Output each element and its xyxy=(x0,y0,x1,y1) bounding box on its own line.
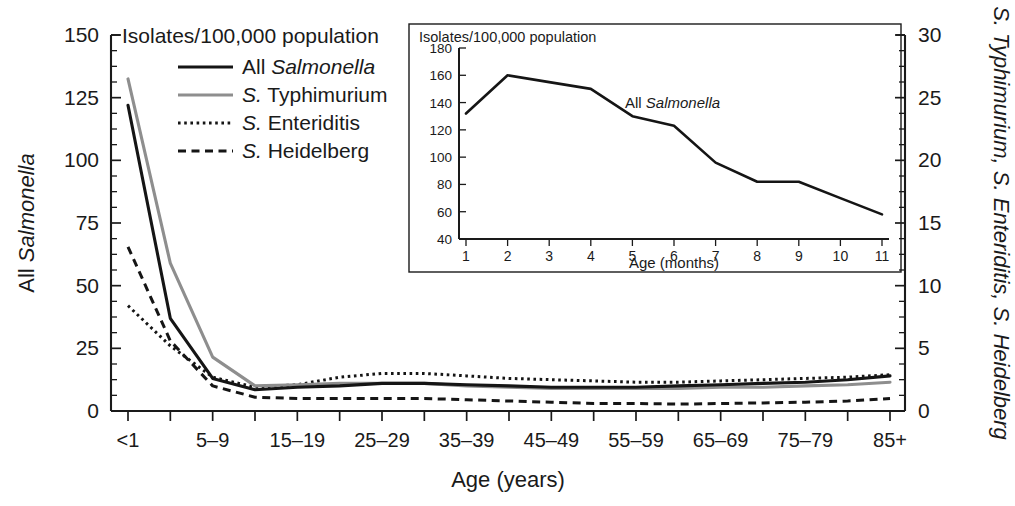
inset-y-tick-label: 140 xyxy=(429,96,452,111)
x-tick-label: 75–79 xyxy=(778,429,834,451)
y-left-tick-label: 150 xyxy=(64,23,99,46)
inset-y-tick-label: 80 xyxy=(437,177,452,192)
x-tick-label: <1 xyxy=(117,429,140,451)
inset-y-tick-label: 160 xyxy=(429,68,452,83)
x-tick-label: 25–29 xyxy=(354,429,410,451)
inset-y-tick-label: 60 xyxy=(437,205,452,220)
y-right-tick-label: 0 xyxy=(918,399,930,422)
inset-y-ticks: 406080100120140160180 xyxy=(429,41,466,247)
main-y-left-title: All Salmonella xyxy=(14,153,39,292)
main-x-ticks: <15–915–1925–2935–3945–4955–5965–6975–79… xyxy=(117,411,907,451)
inset-chart: Isolates/100,000 population 406080100120… xyxy=(409,24,901,272)
y-right-tick-label: 10 xyxy=(918,274,941,297)
y-left-tick-label: 0 xyxy=(87,399,99,422)
main-x-axis-title: Age (years) xyxy=(451,467,565,492)
inset-frame xyxy=(409,24,901,272)
inset-y-tick-label: 120 xyxy=(429,123,452,138)
x-tick-label: 45–49 xyxy=(524,429,580,451)
inset-x-tick-label: 9 xyxy=(795,248,803,264)
y-left-tick-label: 50 xyxy=(76,274,99,297)
x-tick-label: 15–19 xyxy=(270,429,326,451)
inset-x-tick-label: 1 xyxy=(462,248,470,264)
legend-item-s-heidelberg[interactable]: S. Heidelberg xyxy=(178,139,369,162)
main-right-ticks: 051015202530 xyxy=(895,23,941,422)
y-right-tick-label: 25 xyxy=(918,86,941,109)
inset-x-axis-title: Age (months) xyxy=(629,254,719,271)
main-header: Isolates/100,000 population xyxy=(122,24,379,47)
y-right-tick-label: 5 xyxy=(918,336,930,359)
inset-x-tick-label: 3 xyxy=(545,248,553,264)
inset-annotation: All Salmonella xyxy=(625,94,720,111)
y-left-tick-label: 25 xyxy=(76,336,99,359)
legend-item-s-enteriditis[interactable]: S. Enteriditis xyxy=(178,111,360,134)
svg-text:S. Typhimurium: S. Typhimurium xyxy=(242,83,388,106)
main-y-right-title: S. Typhimurium, S. Enteriditis, S. Heide… xyxy=(989,6,1014,440)
x-tick-label: 65–69 xyxy=(693,429,749,451)
y-right-tick-label: 30 xyxy=(918,23,941,46)
main-left-axis xyxy=(111,35,905,411)
svg-text:All Salmonella: All Salmonella xyxy=(14,153,39,292)
inset-x-tick-label: 8 xyxy=(753,248,761,264)
inset-y-tick-label: 40 xyxy=(437,232,452,247)
salmonella-age-figure: 0255075100125150 051015202530 <15–915–19… xyxy=(0,0,1015,506)
x-tick-label: 55–59 xyxy=(608,429,664,451)
line-s-enteriditis xyxy=(128,306,890,388)
inset-y-tick-label: 100 xyxy=(429,150,452,165)
inset-x-tick-label: 11 xyxy=(875,248,890,264)
y-left-tick-label: 75 xyxy=(76,211,99,234)
inset-x-tick-label: 2 xyxy=(504,248,512,264)
svg-text:All Salmonella: All Salmonella xyxy=(242,55,375,78)
y-right-tick-label: 15 xyxy=(918,211,941,234)
figure-root: 0255075100125150 051015202530 <15–915–19… xyxy=(0,0,1015,506)
legend-item-all-salmonella[interactable]: All Salmonella xyxy=(178,55,375,78)
inset-y-tick-label: 180 xyxy=(429,41,452,56)
x-tick-label: 35–39 xyxy=(439,429,495,451)
svg-text:S. Typhimurium, S. Enteriditis: S. Typhimurium, S. Enteriditis, S. Heide… xyxy=(989,6,1014,440)
svg-text:S. Enteriditis: S. Enteriditis xyxy=(242,111,360,134)
svg-text:S. Heidelberg: S. Heidelberg xyxy=(242,139,369,162)
inset-x-tick-label: 4 xyxy=(587,248,595,264)
y-right-tick-label: 20 xyxy=(918,148,941,171)
y-left-tick-label: 100 xyxy=(64,148,99,171)
x-tick-label: 85+ xyxy=(873,429,907,451)
x-tick-label: 5–9 xyxy=(196,429,229,451)
main-legend: All Salmonella S. Typhimurium S. Enterid… xyxy=(178,55,388,162)
legend-item-s-typhimurium[interactable]: S. Typhimurium xyxy=(178,83,388,106)
y-left-tick-label: 125 xyxy=(64,86,99,109)
main-left-ticks: 0255075100125150 xyxy=(64,23,121,422)
inset-x-tick-label: 10 xyxy=(833,248,849,264)
